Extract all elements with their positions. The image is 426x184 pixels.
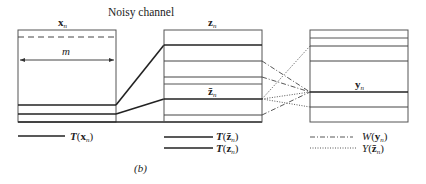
channel-box-label: zn: [208, 17, 216, 32]
output-box: [310, 30, 408, 122]
width-label: m: [62, 46, 70, 57]
legend-t-z: T(zn): [216, 143, 238, 158]
w-y-connections: [262, 61, 310, 115]
input-box-label: xn: [58, 17, 67, 32]
legend-y-zbar: Y(z̄n): [362, 143, 384, 158]
y-zbar-connections: [262, 46, 310, 107]
channel-inner-label: z̄n: [208, 86, 216, 101]
input-box: [18, 30, 116, 122]
channel-box: [164, 30, 262, 122]
legend-t-x: T(xn): [70, 131, 93, 146]
output-box-label: yn: [355, 79, 364, 94]
figure-label: (b): [134, 163, 147, 174]
diagram-title: Noisy channel: [108, 7, 174, 18]
